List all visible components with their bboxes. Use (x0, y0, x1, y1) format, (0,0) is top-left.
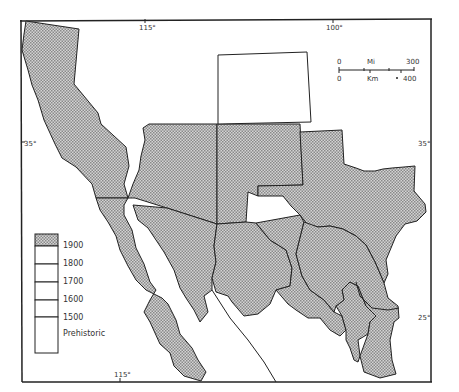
legend: 1900 1800 1700 1600 1500 Prehistoric (35, 234, 105, 353)
legend-swatch-1500 (35, 300, 58, 317)
legend-swatch-1900 (35, 234, 58, 246)
legend-label-1900: 1900 (63, 241, 83, 250)
region-colorado (218, 52, 311, 124)
scale-mi-end: 300 (406, 58, 419, 66)
legend-label-1700: 1700 (63, 277, 83, 286)
tick-bottom-115: 115° (114, 371, 131, 379)
scale-km-label: Km (367, 75, 379, 83)
legend-label-prehistoric: Prehistoric (63, 329, 105, 338)
tick-left-35: 35° (24, 140, 36, 148)
tick-top-115: 115° (139, 24, 156, 32)
legend-swatch-1800 (35, 246, 58, 264)
scale-bar: 0 Mi 300 0 Km 400 (337, 58, 419, 83)
region-california (22, 21, 129, 198)
scale-km-end: 400 (403, 75, 416, 83)
scale-km-start: 0 (337, 75, 341, 83)
tick-top-100: 100° (326, 24, 343, 32)
regions (22, 21, 426, 382)
legend-label-1500: 1500 (63, 313, 83, 322)
scale-mi-label: Mi (367, 58, 375, 66)
tick-right-35: 35° (418, 140, 430, 148)
legend-swatch-prehistoric (35, 317, 58, 353)
legend-swatch-1600 (35, 282, 58, 300)
scale-mi-start: 0 (337, 58, 341, 66)
legend-label-1600: 1600 (63, 295, 83, 304)
region-sonora (133, 205, 217, 322)
legend-swatch-1700 (35, 264, 58, 282)
region-new-mexico (217, 124, 303, 224)
historical-map: 115° 100° 115° 35° 35° 25° 0 Mi 300 0 Km… (0, 0, 459, 392)
legend-label-1800: 1800 (63, 259, 83, 268)
tick-right-25: 25° (418, 314, 430, 322)
